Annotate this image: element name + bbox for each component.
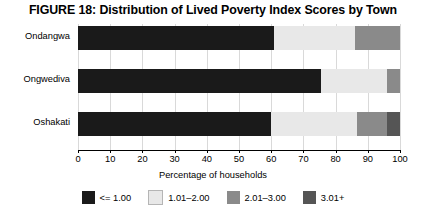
bar-segment [387,112,400,136]
legend-label: <= 1.00 [100,193,132,203]
bar-row [78,69,400,93]
bar-segment [357,112,388,136]
x-tick-label: 100 [385,154,415,164]
x-tick-label: 70 [288,154,318,164]
legend-swatch-icon [148,190,163,205]
bar-segment [274,26,355,50]
x-tick-label: 40 [192,154,222,164]
legend-item[interactable]: <= 1.00 [82,191,132,204]
x-tick-label: 50 [224,154,254,164]
y-axis-label: Ongwediva [0,74,70,84]
plot-area [78,24,400,150]
x-tick-label: 80 [321,154,351,164]
legend-swatch-icon [303,191,316,204]
bar-row [78,26,400,50]
legend-swatch-icon [82,191,95,204]
chart-title: FIGURE 18: Distribution of Lived Poverty… [0,3,426,17]
y-axis-label: Oshakati [0,117,70,127]
tick-mark [368,150,369,153]
tick-mark [142,150,143,153]
tick-mark [400,150,401,153]
bar-segment [321,69,387,93]
x-tick-label: 30 [160,154,190,164]
tick-mark [303,150,304,153]
x-tick-label: 20 [127,154,157,164]
tick-mark [239,150,240,153]
x-axis-title: Percentage of households [0,170,426,180]
legend-swatch-icon [227,191,240,204]
legend-label: 1.01–2.00 [168,193,209,203]
tick-mark [336,150,337,153]
tick-mark [271,150,272,153]
legend-label: 3.01+ [321,193,345,203]
x-tick-label: 60 [256,154,286,164]
bar-segment [78,69,321,93]
legend-item[interactable]: 1.01–2.00 [148,190,209,205]
x-tick-label: 0 [63,154,93,164]
legend-item[interactable]: 2.01–3.00 [227,191,286,204]
legend-label: 2.01–3.00 [245,193,286,203]
bar-segment [78,112,271,136]
x-tick-label: 90 [353,154,383,164]
bar-segment [271,112,356,136]
chart-legend: <= 1.001.01–2.002.01–3.003.01+ [0,190,426,205]
tick-mark [207,150,208,153]
y-axis-label: Ondangwa [0,31,70,41]
gridline [400,24,401,150]
tick-mark [175,150,176,153]
tick-mark [78,150,79,153]
tick-mark [110,150,111,153]
bar-segment [387,69,400,93]
bar-segment [355,26,400,50]
legend-item[interactable]: 3.01+ [303,191,345,204]
bar-segment [78,26,274,50]
bar-row [78,112,400,136]
x-tick-label: 10 [95,154,125,164]
